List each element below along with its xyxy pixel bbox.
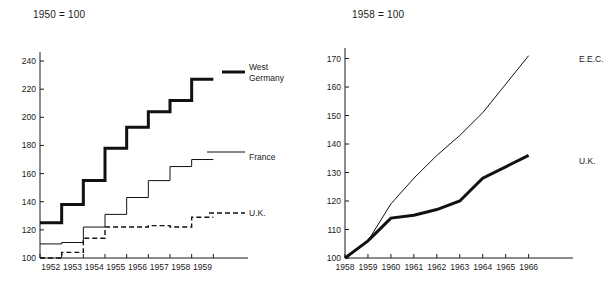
chart-right-1958-base: 1958 = 100 17016015014013012011010019581… (307, 0, 614, 282)
x-tick-label: 1953 (63, 262, 82, 272)
x-tick-label: 1963 (450, 262, 469, 272)
y-tick-label: 140 (327, 139, 341, 149)
x-tick-label: 1958 (171, 262, 190, 272)
y-tick-label: 110 (327, 225, 341, 235)
axis-spines (345, 48, 573, 258)
y-tick-label: 150 (327, 111, 341, 121)
x-tick-label: 1959 (193, 262, 212, 272)
series-path-france (40, 160, 213, 244)
x-tick-label: 1956 (128, 262, 147, 272)
y-tick-label: 120 (22, 225, 36, 235)
y-tick-label: 170 (327, 54, 341, 64)
y-tick-label: 200 (22, 112, 36, 122)
chart-right-canvas: 1701601501401301201101001958195919601961… (307, 0, 614, 282)
axis-spines (40, 52, 248, 258)
x-tick-label: 1957 (150, 262, 169, 272)
series-path-u-k (345, 155, 529, 258)
x-tick-label: 1964 (473, 262, 492, 272)
x-tick-label: 1959 (358, 262, 377, 272)
x-tick-label: 1960 (381, 262, 400, 272)
chart-left-1950-base: 1950 = 100 24022020018016014012010019521… (0, 0, 307, 282)
x-tick-label: 1965 (496, 262, 515, 272)
x-tick-label: 1966 (519, 262, 538, 272)
y-tick-label: 160 (22, 169, 36, 179)
y-tick-label: 160 (327, 82, 341, 92)
x-tick-label: 1954 (85, 262, 104, 272)
y-tick-label: 180 (22, 140, 36, 150)
series-path-u-k (40, 217, 213, 258)
x-tick-label: 1958 (336, 262, 355, 272)
y-tick-label: 120 (327, 196, 341, 206)
y-tick-label: 220 (22, 84, 36, 94)
x-tick-label: 1962 (427, 262, 446, 272)
y-tick-label: 100 (22, 253, 36, 263)
series-path-e-e-c (345, 56, 529, 258)
x-tick-label: 1961 (404, 262, 423, 272)
x-tick-label: 1952 (41, 262, 60, 272)
y-tick-label: 130 (327, 168, 341, 178)
chart-left-canvas: 2402202001801601401201001952195319541955… (0, 0, 307, 282)
x-tick-label: 1955 (106, 262, 125, 272)
y-tick-label: 140 (22, 197, 36, 207)
y-tick-label: 240 (22, 56, 36, 66)
